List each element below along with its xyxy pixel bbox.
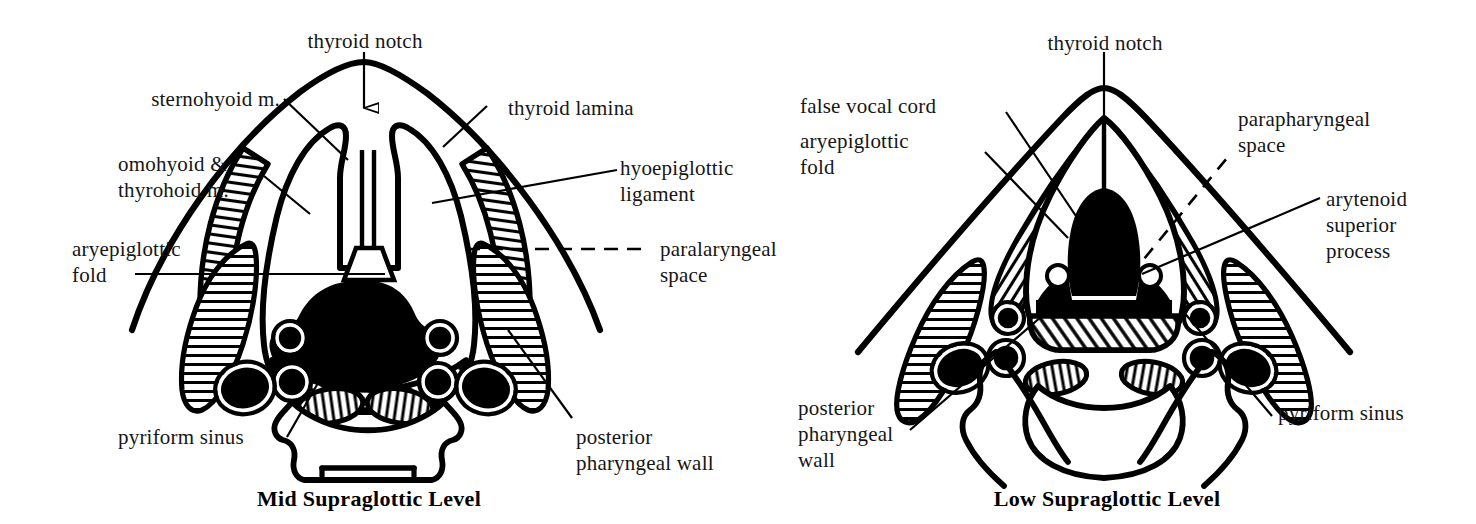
low-lateral-muscle-left — [897, 260, 985, 423]
label-hyoepiglottic-ligament: hyoepiglottic ligament — [620, 155, 733, 207]
label-sternohyoid-m: sternohyoid m. — [0, 86, 280, 112]
label-parapharyngeal-space: parapharyngeal space — [1238, 106, 1370, 158]
panel-mid-supraglottic: thyroid notch sternohyoid m. omohyoid & … — [0, 0, 738, 524]
mid-epiglottis-midline-cleft — [344, 150, 394, 280]
label-pyriform-sinus: pyriform sinus — [1278, 400, 1404, 426]
low-lateral-muscle-right — [1224, 260, 1312, 423]
label-arytenoid-superior-process: arytenoid superior process — [1326, 186, 1407, 264]
label-thyroid-notch: thyroid notch — [1047, 30, 1162, 56]
label-aryepiglottic-fold: aryepiglottic fold — [800, 128, 909, 180]
figure-root: thyroid notch sternohyoid m. omohyoid & … — [0, 0, 1476, 524]
label-pyriform-sinus: pyriform sinus — [118, 424, 244, 450]
label-posterior-pharyngeal-wall: posterior pharyngeal wall — [576, 424, 714, 476]
low-cricoid-plate — [1030, 316, 1179, 350]
label-thyroid-notch: thyroid notch — [307, 28, 422, 54]
panel-low-supraglottic: thyroid notch false vocal cord aryepiglo… — [738, 0, 1476, 524]
panel-title-mid-supraglottic: Mid Supraglottic Level — [0, 486, 738, 512]
panel-title-low-supraglottic: Low Supraglottic Level — [738, 486, 1476, 512]
label-false-vocal-cord: false vocal cord — [800, 93, 936, 119]
label-aryepiglottic-fold: aryepiglottic fold — [72, 236, 181, 288]
label-posterior-pharyngeal-wall: posterior pharyngeal wall — [798, 395, 893, 473]
label-thyroid-lamina: thyroid lamina — [508, 95, 634, 121]
label-omohyoid-thyrohoid-m: omohyoid & thyrohoid m. — [118, 151, 229, 203]
low-arytenoid-superior-process-left — [1047, 265, 1069, 287]
